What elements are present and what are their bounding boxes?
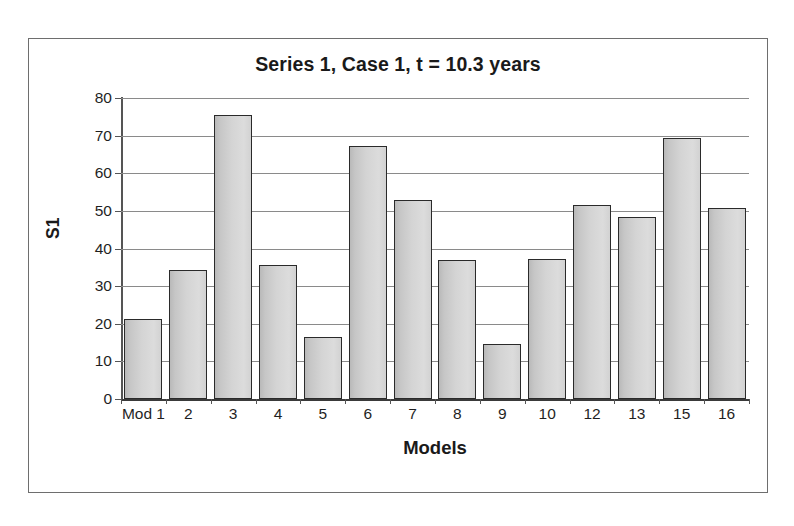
x-tick-label: 9 xyxy=(498,405,507,423)
bar[interactable] xyxy=(349,146,387,399)
bar-slot xyxy=(390,98,435,399)
x-tick-label: 12 xyxy=(583,405,600,423)
y-tick-label: 80 xyxy=(95,89,112,107)
x-tick-label: 6 xyxy=(363,405,372,423)
bars-layer xyxy=(121,98,749,399)
bar-slot xyxy=(256,98,301,399)
bar[interactable] xyxy=(528,259,566,399)
x-axis-title: Models xyxy=(121,437,749,459)
x-tick-mark xyxy=(390,399,391,404)
x-tick-mark xyxy=(525,399,526,404)
x-tick-label: 4 xyxy=(274,405,283,423)
x-tick-label: 3 xyxy=(229,405,238,423)
x-tick-mark xyxy=(121,399,122,404)
x-tick-label: 5 xyxy=(319,405,328,423)
x-tick-label: 16 xyxy=(718,405,735,423)
x-tick-mark xyxy=(704,399,705,404)
bar-slot xyxy=(121,98,166,399)
bar-slot xyxy=(614,98,659,399)
bar-slot xyxy=(659,98,704,399)
x-tick-mark xyxy=(345,399,346,404)
bar[interactable] xyxy=(663,138,701,399)
bar[interactable] xyxy=(618,217,656,399)
bar-slot xyxy=(166,98,211,399)
y-tick-label: 30 xyxy=(95,277,112,295)
bar-slot xyxy=(211,98,256,399)
x-tick-mark xyxy=(435,399,436,404)
x-tick-label: 13 xyxy=(628,405,645,423)
y-tick-label: 0 xyxy=(103,390,112,408)
x-tick-mark xyxy=(614,399,615,404)
y-tick-label: 20 xyxy=(95,315,112,333)
x-axis-tick-labels: Mod 1234567891012131516 xyxy=(121,405,749,431)
plot-area: 01020304050607080 xyxy=(121,98,749,399)
bar[interactable] xyxy=(259,265,297,399)
x-tick-mark xyxy=(659,399,660,404)
x-tick-label: 7 xyxy=(408,405,417,423)
y-tick-label: 60 xyxy=(95,164,112,182)
x-tick-mark xyxy=(211,399,212,404)
bar[interactable] xyxy=(214,115,252,399)
y-tick-label: 50 xyxy=(95,202,112,220)
bar[interactable] xyxy=(124,319,162,399)
x-tick-mark xyxy=(480,399,481,404)
y-tick-label: 70 xyxy=(95,127,112,145)
x-tick-label: 10 xyxy=(539,405,556,423)
y-tick-label: 40 xyxy=(95,240,112,258)
x-tick-mark xyxy=(256,399,257,404)
bar[interactable] xyxy=(304,337,342,399)
y-tick-label: 10 xyxy=(95,352,112,370)
x-tick-label: 2 xyxy=(184,405,193,423)
bar[interactable] xyxy=(573,205,611,399)
y-axis-title: S1 xyxy=(43,218,64,239)
chart-title: Series 1, Case 1, t = 10.3 years xyxy=(29,53,767,76)
bar-slot xyxy=(435,98,480,399)
x-tick-label: Mod 1 xyxy=(122,405,165,423)
x-tick-mark xyxy=(300,399,301,404)
chart-frame: Series 1, Case 1, t = 10.3 years S1 0102… xyxy=(28,38,768,493)
bar-slot xyxy=(525,98,570,399)
x-tick-mark xyxy=(570,399,571,404)
bar-slot xyxy=(480,98,525,399)
bar[interactable] xyxy=(438,260,476,399)
bar[interactable] xyxy=(394,200,432,399)
bar[interactable] xyxy=(483,344,521,399)
bar-slot xyxy=(704,98,749,399)
x-tick-label: 8 xyxy=(453,405,462,423)
bar[interactable] xyxy=(708,208,746,399)
bar-slot xyxy=(570,98,615,399)
bar[interactable] xyxy=(169,270,207,399)
bar-slot xyxy=(300,98,345,399)
x-tick-mark xyxy=(749,399,750,404)
bar-slot xyxy=(345,98,390,399)
x-tick-label: 15 xyxy=(673,405,690,423)
x-tick-mark xyxy=(166,399,167,404)
